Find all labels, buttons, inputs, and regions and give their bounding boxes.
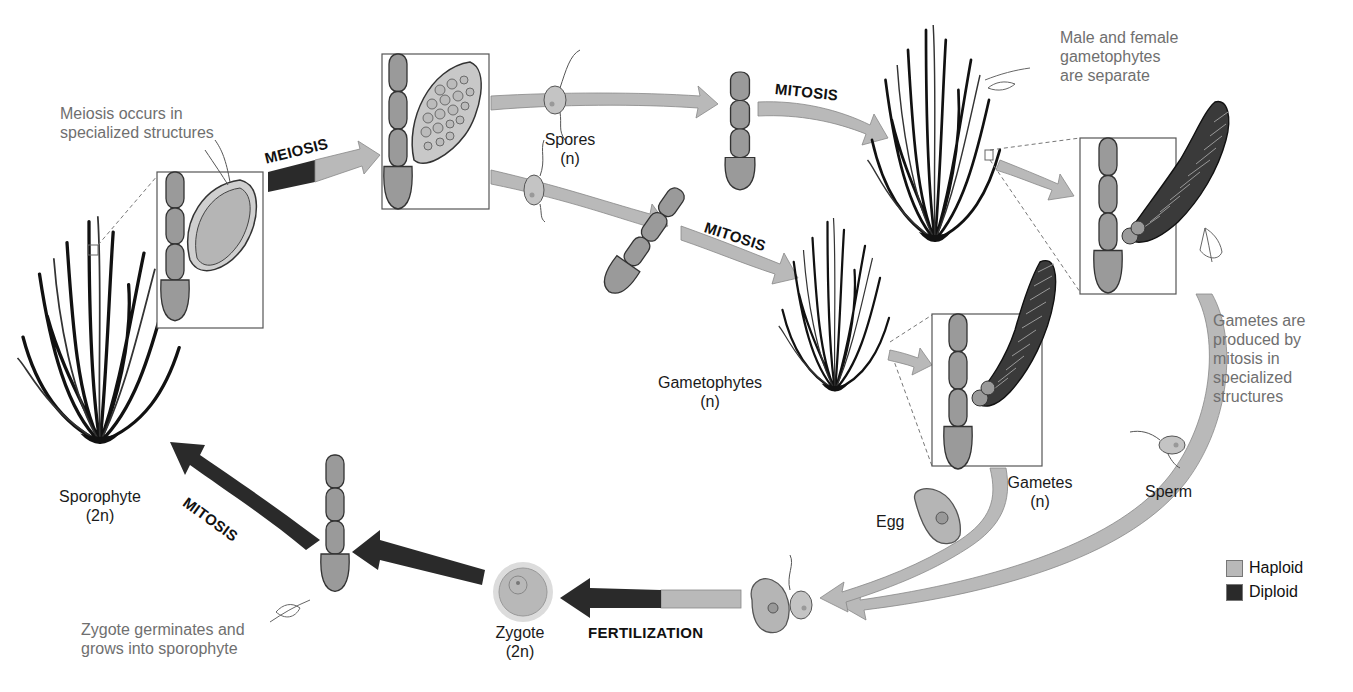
separate-gametophytes-note: Male and female gametophytes are separat… [1060,28,1178,85]
legend-label: Haploid [1249,559,1303,577]
zygote-label: Zygote (2n) [480,623,560,661]
note-line: grows into sporophyte [81,639,245,658]
female-gametophyte-illustration [779,218,889,392]
legend-item-diploid: Diploid [1226,580,1303,604]
fertilization-cells [751,555,812,633]
stage-name: Gametes [1000,473,1080,492]
note-line: Male and female [1060,28,1178,47]
note-line: gametophytes [1060,47,1178,66]
note-line: Zygote germinates and [81,620,245,639]
sperm-label: Sperm [1145,482,1205,501]
legend-item-haploid: Haploid [1226,556,1303,580]
stage-ploidy: (2n) [50,506,150,525]
note-line: produced by [1213,330,1305,349]
stage-ploidy: (n) [1000,492,1080,511]
zygote-note: Zygote germinates and grows into sporoph… [81,620,245,658]
spore-sporangium-inset [382,54,489,209]
zoom-line [98,175,158,245]
note-line: mitosis in [1213,349,1305,368]
note-line: specialized structures [60,123,214,142]
stage-ploidy: (n) [530,149,610,168]
young-gametophyte-upper [725,72,755,190]
mitosis-arrows [681,102,888,284]
stage-name: Zygote [480,623,560,642]
sporophyte-label: Sporophyte (2n) [50,487,150,525]
egg-cell [915,489,961,544]
egg-label: Egg [876,512,916,531]
gametophytes-label: Gametophytes (n) [650,373,770,411]
note-line: Gametes are [1213,311,1305,330]
note-line: structures [1213,387,1305,406]
zoom-region-marker [985,150,993,160]
gametes-label: Gametes (n) [1000,473,1080,511]
spores-label: Spores (n) [530,130,610,168]
diploid-swatch [1226,584,1243,601]
zygote-to-filament-arrow [352,530,485,585]
stage-ploidy: (2n) [480,642,560,661]
life-cycle-diagram: Sporophyte (2n) Spores (n) Gametophytes … [0,0,1353,692]
fertilization-label: FERTILIZATION [588,624,703,641]
stage-name: Spores [530,130,610,149]
sporangium-inset [157,140,263,328]
gametangium-inset-lower [932,261,1056,469]
note-line: are separate [1060,66,1178,85]
stage-name: Sporophyte [50,487,150,506]
germinating-sporophyte [321,455,349,591]
zygote-cell [493,562,553,622]
meiosis-note: Meiosis occurs in specialized structures [60,104,214,142]
note-line: Meiosis occurs in [60,104,214,123]
legend-label: Diploid [1249,583,1298,601]
legend: Haploid Diploid [1226,556,1303,604]
young-gametophyte-lower [597,182,691,300]
antheridium-inset [1080,101,1229,294]
note-line: specialized [1213,368,1305,387]
haploid-swatch [1226,560,1243,577]
fertilization-arrow [560,578,741,618]
gametes-note: Gametes are produced by mitosis in speci… [1213,311,1305,406]
stage-name: Gametophytes [650,373,770,392]
male-gametophyte-illustration [868,25,1000,242]
sperm-cell [1130,431,1185,468]
stage-ploidy: (n) [650,392,770,411]
